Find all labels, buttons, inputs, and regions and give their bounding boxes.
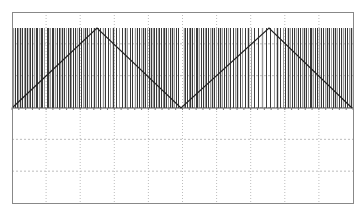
oscilloscope-chart: [0, 0, 362, 216]
